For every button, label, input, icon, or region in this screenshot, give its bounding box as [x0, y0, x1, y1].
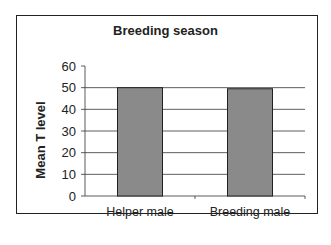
y-tick-label: 20: [62, 145, 76, 160]
y-tick-label: 0: [69, 189, 76, 204]
x-tick-label: Breeding male: [210, 205, 291, 219]
y-tick-label: 60: [62, 59, 76, 74]
bar: [228, 89, 273, 196]
plot-area: 0102030405060Helper maleBreeding male: [0, 0, 331, 245]
x-tick-label: Helper male: [106, 205, 173, 219]
bar: [118, 88, 163, 196]
y-tick-label: 30: [62, 124, 76, 139]
y-tick-label: 40: [62, 102, 76, 117]
y-tick-label: 10: [62, 167, 76, 182]
y-tick-label: 50: [62, 80, 76, 95]
